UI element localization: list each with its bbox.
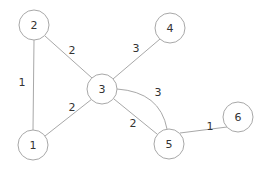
node-2: 2 — [19, 10, 49, 40]
edge-2-1 — [33, 40, 34, 130]
node-label-2: 2 — [31, 19, 38, 32]
graph-diagram: 1 2 2 3 3 2 1 1 2 3 4 5 6 — [0, 0, 268, 170]
node-5: 5 — [154, 129, 184, 159]
edge-label-2-3: 2 — [69, 44, 76, 57]
node-4: 4 — [155, 13, 185, 43]
node-1: 1 — [18, 130, 48, 160]
edge-label-1-3: 2 — [69, 101, 76, 114]
node-3: 3 — [87, 74, 117, 104]
node-label-5: 5 — [166, 138, 173, 151]
edge-label-5-6: 1 — [207, 120, 214, 133]
edge-label-2-1: 1 — [19, 76, 26, 89]
node-label-6: 6 — [235, 111, 242, 124]
node-label-4: 4 — [167, 22, 174, 35]
edge-label-3-4: 3 — [133, 42, 140, 55]
node-label-1: 1 — [30, 139, 37, 152]
edge-label-3-5: 2 — [130, 117, 137, 130]
node-6: 6 — [223, 102, 253, 132]
nodes: 1 2 3 4 5 6 — [18, 10, 253, 160]
edge-5-6 — [180, 127, 227, 133]
edge-2-3 — [45, 36, 92, 78]
edge-label-3-5-curved: 3 — [155, 86, 162, 99]
node-label-3: 3 — [99, 83, 106, 96]
